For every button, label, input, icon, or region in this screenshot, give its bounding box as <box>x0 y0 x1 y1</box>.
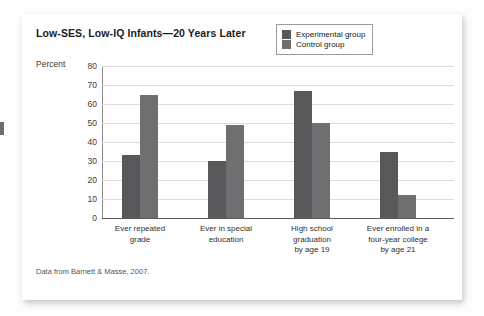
y-tick-label: 80 <box>88 61 97 71</box>
source-note: Data from Barnett & Masse, 2007. <box>36 267 149 276</box>
bar-experimental <box>380 152 398 219</box>
page-edge-mark <box>0 122 4 135</box>
bar-control <box>312 123 330 218</box>
legend-swatch-experimental-icon <box>282 30 291 39</box>
y-tick-label: 30 <box>88 156 97 166</box>
gridline <box>102 85 454 86</box>
y-tick-label: 40 <box>88 137 97 147</box>
x-category-label-line: four-year college <box>343 235 453 246</box>
legend-item-control: Control group <box>282 40 365 49</box>
bar-experimental <box>122 155 140 218</box>
bar-control <box>398 195 416 218</box>
legend-label-control: Control group <box>296 40 344 49</box>
y-tick-label: 50 <box>88 118 97 128</box>
bar-control <box>140 95 158 219</box>
chart-legend: Experimental group Control group <box>276 24 373 55</box>
bar-experimental <box>294 91 312 218</box>
y-tick-label: 0 <box>92 213 97 223</box>
figure-title: Low-SES, Low-IQ Infants—20 Years Later <box>36 27 246 39</box>
bar-experimental <box>208 161 226 218</box>
y-tick-label: 60 <box>88 99 97 109</box>
y-tick-label: 70 <box>88 80 97 90</box>
bar-control <box>226 125 244 218</box>
x-category-label-line: by age 21 <box>343 245 453 256</box>
figure-card: Low-SES, Low-IQ Infants—20 Years Later P… <box>22 14 462 300</box>
legend-swatch-control-icon <box>282 40 291 49</box>
plot-area: 01020304050607080 Ever repeatedgradeEver… <box>102 66 454 218</box>
y-axis-unit-label: Percent <box>36 59 65 69</box>
gridline <box>102 66 454 67</box>
x-category-label-line: Ever enrolled in a <box>343 224 453 235</box>
y-tick-label: 20 <box>88 175 97 185</box>
legend-label-experimental: Experimental group <box>296 30 365 39</box>
x-category-label: Ever enrolled in afour-year collegeby ag… <box>343 224 453 256</box>
y-tick-label: 10 <box>88 194 97 204</box>
legend-item-experimental: Experimental group <box>282 30 365 39</box>
